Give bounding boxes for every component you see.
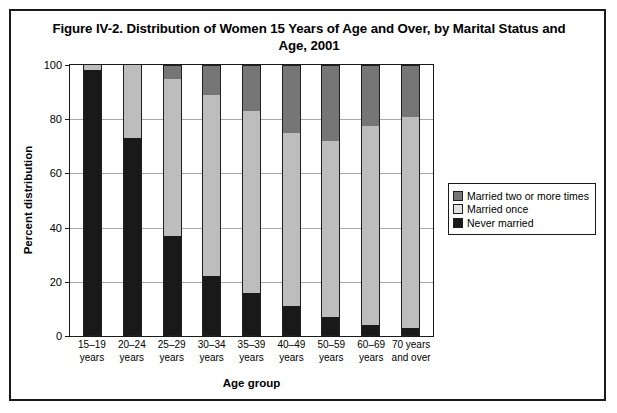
legend-item[interactable]: Married once [453,203,589,215]
bar-segment-never-married [242,293,261,336]
bar-segment-never-married [123,138,142,336]
bar-slot [351,65,391,336]
bar-segment-married-two-or-more [361,65,380,126]
bar-slot [192,65,232,336]
bar-segment-married-once [361,126,380,325]
bar-slot [311,65,351,336]
legend-item-label: Married once [467,203,528,215]
x-axis-label: 50–59years [311,339,351,364]
bar-segment-married-two-or-more [401,65,420,116]
x-axis-label: 40–49years [271,339,311,364]
bar-slot [390,65,430,336]
bar-segment-never-married [163,236,182,336]
bar-segment-married-once [202,95,221,277]
x-axis-label-line-1: 30–34 [198,339,226,350]
stacked-bar[interactable] [83,65,102,336]
bar-segment-married-once [282,133,301,306]
x-axis-label-line-1: 40–49 [277,339,305,350]
legend-swatch-icon [453,204,463,214]
bar-group [70,65,433,336]
bar-segment-never-married [202,276,221,336]
bar-segment-married-once [321,141,340,317]
bar-segment-never-married [401,328,420,336]
x-axis-label-line-1: 15–19 [78,339,106,350]
x-axis-label: 60–69years [351,339,391,364]
bar-segment-married-two-or-more [321,65,340,141]
bar-segment-married-two-or-more [202,65,221,95]
legend-item[interactable]: Married two or more times [453,190,589,202]
x-axis-label-line-1: 25–29 [158,339,186,350]
bar-segment-married-two-or-more [163,65,182,79]
y-axis-tick-label: 0 [56,330,62,342]
stacked-bar[interactable] [242,65,261,336]
bar-segment-married-two-or-more [282,65,301,133]
legend-item-label: Never married [467,217,534,229]
x-axis-label-line-2: years [232,352,272,365]
y-axis-tick-label: 20 [50,276,62,288]
x-axis-label-line-1: 20–24 [118,339,146,350]
x-axis-label: 30–34years [192,339,232,364]
stacked-bar[interactable] [321,65,340,336]
bar-segment-never-married [83,70,102,336]
bar-segment-married-once [401,117,420,328]
stacked-bar[interactable] [123,65,142,336]
legend-swatch-icon [453,191,463,201]
x-axis-title-text: Age group [223,377,281,389]
x-axis-labels: 15–19years20–24years25–29years30–34years… [69,339,434,364]
bar-slot [73,65,113,336]
x-axis-label: 35–39years [232,339,272,364]
x-axis-label: 15–19years [72,339,112,364]
plot-wrapper: Percent distribution 100806040200 15–19y… [11,11,608,403]
x-axis-label-line-2: and over [391,352,431,365]
bar-segment-married-once [123,65,142,138]
figure-frame: Figure IV-2. Distribution of Women 15 Ye… [9,9,606,401]
bar-slot [113,65,153,336]
y-axis-title-text: Percent distribution [22,145,34,254]
bar-segment-married-once [163,79,182,236]
stacked-bar[interactable] [361,65,380,336]
y-axis-tick-label: 60 [50,167,62,179]
bar-segment-never-married [321,317,340,336]
bar-slot [152,65,192,336]
x-axis-title: Age group [69,377,434,389]
x-axis-label-line-2: years [72,352,112,365]
x-axis-label-line-2: years [311,352,351,365]
chart-legend: Married two or more timesMarried onceNev… [448,183,596,235]
x-axis-label: 25–29years [152,339,192,364]
x-axis-label: 70 yearsand over [391,339,431,364]
x-axis-label-line-1: 35–39 [238,339,266,350]
x-axis-label-line-2: years [112,352,152,365]
bar-segment-never-married [282,306,301,336]
bar-slot [232,65,272,336]
bar-segment-married-two-or-more [242,65,261,111]
x-axis-label: 20–24years [112,339,152,364]
stacked-bar[interactable] [163,65,182,336]
stacked-bar[interactable] [401,65,420,336]
x-axis-label-line-1: 60–69 [357,339,385,350]
legend-swatch-icon [453,218,463,228]
x-axis-label-line-2: years [152,352,192,365]
x-axis-label-line-1: 50–59 [317,339,345,350]
plot-area: 100806040200 [69,64,434,337]
legend-item[interactable]: Never married [453,217,589,229]
y-axis-title: Percent distribution [19,64,37,335]
x-axis-label-line-2: years [351,352,391,365]
y-axis-tick-label: 80 [50,113,62,125]
bar-slot [271,65,311,336]
stacked-bar[interactable] [202,65,221,336]
y-axis-tick-label: 100 [44,59,62,71]
y-axis-tick-mark [65,336,70,337]
stacked-bar[interactable] [282,65,301,336]
bar-segment-never-married [361,325,380,336]
x-axis-label-line-2: years [271,352,311,365]
x-axis-label-line-2: years [192,352,232,365]
bar-segment-married-once [242,111,261,293]
y-axis-tick-label: 40 [50,222,62,234]
x-axis-label-line-1: 70 years [392,339,430,350]
legend-item-label: Married two or more times [467,190,589,202]
